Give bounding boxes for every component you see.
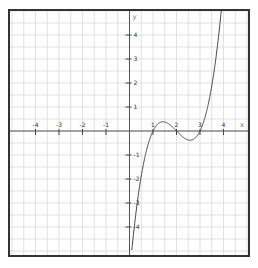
y-tick-label: 1 xyxy=(134,103,138,110)
y-axis-label: y xyxy=(133,13,137,21)
y-tick-label: 4 xyxy=(134,31,138,38)
x-tick-label: 2 xyxy=(175,121,179,128)
function-plot: -4-3-2-112344321-1-2-3-4 x y xyxy=(0,0,258,268)
y-tick-label: 3 xyxy=(134,55,138,62)
x-tick-label: -4 xyxy=(33,121,39,128)
x-tick-label: 4 xyxy=(222,121,226,128)
x-tick-label: -1 xyxy=(103,121,109,128)
y-tick-label: -2 xyxy=(134,175,140,182)
x-axis-label: x xyxy=(240,121,244,129)
x-tick-label: -3 xyxy=(56,121,62,128)
y-tick-label: 2 xyxy=(134,79,138,86)
y-tick-label: -1 xyxy=(134,151,140,158)
x-tick-label: -2 xyxy=(80,121,86,128)
x-tick-label: 1 xyxy=(151,121,155,128)
